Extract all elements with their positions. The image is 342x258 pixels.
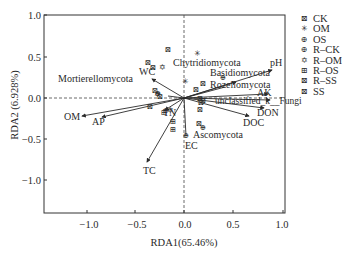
svg-text:✡: ✡ <box>159 63 166 72</box>
svg-text:⊠: ⊠ <box>197 105 203 114</box>
y-tick-label: 0.0 <box>28 93 41 104</box>
circle-plus-small-marker-icon: ⊕ <box>298 45 310 55</box>
box-x-filled-marker-icon: ⊠ <box>298 76 310 86</box>
y-tick-label: 0.5 <box>28 52 41 63</box>
label-EC: EC <box>185 140 198 151</box>
svg-text:✡: ✡ <box>154 90 161 99</box>
star-of-david-marker-icon: ✡ <box>298 56 310 66</box>
label-mortierellomycota: Mortierellomycota <box>58 73 134 84</box>
asterisk-marker-icon: ✳ <box>298 24 310 34</box>
x-tick-label: −1.0 <box>79 219 98 230</box>
svg-text:⊠: ⊠ <box>200 79 206 88</box>
legend: ⊠CK ✳OM ⊕OS ⊕R–CK ✡R–OM ⊞R–OS ⊠R–SS ⊠SS <box>298 14 342 97</box>
label-pH: pH <box>270 57 282 68</box>
x-axis: −1.0 −0.5 0.0 0.5 1.0 RDA1(65.46%) <box>79 210 288 249</box>
x-tick-label: 0.5 <box>226 219 239 230</box>
svg-text:⊠: ⊠ <box>165 45 171 54</box>
y-axis-label: RDA2 (6.928%) <box>9 70 21 140</box>
label-unclassified: unclassified_k__Fungi <box>215 96 302 106</box>
legend-item-ss: ⊠SS <box>298 87 342 97</box>
y-tick-label: −1.0 <box>22 175 41 186</box>
svg-text:⊠: ⊠ <box>193 85 199 94</box>
svg-text:⊠: ⊠ <box>147 102 153 111</box>
label-WC: WC <box>139 66 155 77</box>
box-triangle-marker-icon: ⊠ <box>298 87 310 97</box>
x-tick-label: 1.0 <box>275 219 288 230</box>
y-axis: 1.0 0.5 0.0 −0.5 −1.0 RDA2 (6.928%) <box>9 10 47 186</box>
vector-labels: pH AK DON DOC OM AP WC TN TC EC Chytridi… <box>58 57 302 176</box>
label-TC: TC <box>143 165 156 176</box>
label-rozellomycota: Rozellomycota <box>210 79 271 90</box>
svg-text:✳: ✳ <box>182 77 189 86</box>
label-basidiomycota: Basidiomycota <box>210 67 271 78</box>
x-axis-label: RDA1(65.46%) <box>151 237 218 249</box>
y-tick-label: 1.0 <box>28 10 41 21</box>
circle-plus-marker-icon: ⊕ <box>298 35 310 45</box>
svg-text:⊕: ⊕ <box>183 131 189 140</box>
label-ascomycota: Ascomycota <box>193 129 244 140</box>
label-DOC: DOC <box>243 117 264 128</box>
y-tick-label: −0.5 <box>22 134 41 145</box>
label-AP: AP <box>92 116 105 127</box>
label-OM: OM <box>64 111 80 122</box>
x-tick-label: 0.0 <box>178 219 191 230</box>
label-TN: TN <box>163 107 176 118</box>
box-plus-marker-icon: ⊞ <box>298 66 310 76</box>
svg-text:⊞: ⊞ <box>170 125 176 134</box>
x-tick-label: −0.5 <box>127 219 146 230</box>
box-x-marker-icon: ⊠ <box>298 14 310 24</box>
rda-biplot: 1.0 0.5 0.0 −0.5 −1.0 RDA2 (6.928%) −1.0… <box>0 0 342 258</box>
